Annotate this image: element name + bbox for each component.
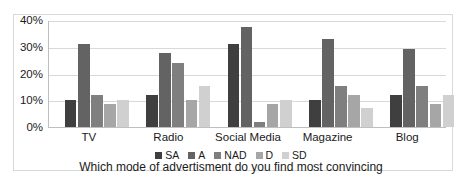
legend-swatch-icon [282, 152, 289, 159]
bar-group [293, 21, 374, 127]
bar-group [49, 21, 130, 127]
y-axis-tick-label: 30% [3, 42, 43, 54]
y-axis-tick-label: 10% [3, 96, 43, 108]
legend-item[interactable]: D [256, 150, 274, 161]
bar [361, 108, 373, 127]
legend-swatch-icon [188, 152, 195, 159]
legend-item[interactable]: SA [155, 150, 179, 161]
bar [172, 63, 184, 127]
x-axis-category-label: Radio [129, 131, 209, 143]
x-axis-category-label: Blog [367, 131, 447, 143]
legend-item[interactable]: SD [282, 150, 307, 161]
legend-item[interactable]: NAD [214, 150, 246, 161]
bar [322, 39, 334, 127]
legend-label: A [198, 150, 205, 161]
bar [267, 104, 279, 127]
bar [309, 100, 321, 127]
chart-legend: SAANADDSD [0, 150, 462, 161]
bar [403, 49, 415, 127]
bar-group [374, 21, 455, 127]
bar [117, 100, 129, 127]
bar [199, 86, 211, 127]
y-axis-tick-label: 0% [3, 122, 43, 134]
bar [228, 44, 240, 127]
legend-label: NAD [224, 150, 246, 161]
x-axis-category-label: TV [49, 131, 129, 143]
x-axis-category-label: Magazine [288, 131, 368, 143]
bar [348, 95, 360, 127]
x-axis-title: Which mode of advertisment do you find m… [0, 160, 462, 174]
bar-chart: 0%10%20%30%40% TVRadioSocial MediaMagazi… [0, 0, 462, 185]
bar [335, 86, 347, 127]
x-axis-category-label: Social Media [208, 131, 288, 143]
y-axis-tick-label: 40% [3, 15, 43, 27]
plot-area [48, 21, 446, 128]
bar [443, 95, 455, 127]
bar-group [212, 21, 293, 127]
legend-swatch-icon [155, 152, 162, 159]
bar [104, 104, 116, 127]
bar [65, 100, 77, 127]
legend-label: SA [165, 150, 179, 161]
bar [390, 95, 402, 127]
legend-label: D [266, 150, 274, 161]
x-axis-category-labels: TVRadioSocial MediaMagazineBlog [49, 131, 447, 143]
bar [159, 53, 171, 127]
bar [241, 27, 253, 127]
legend-label: SD [292, 150, 307, 161]
bar-group [130, 21, 211, 127]
bar [146, 95, 158, 127]
bar [186, 100, 198, 127]
bar [254, 122, 266, 127]
bar [430, 104, 442, 127]
bar [416, 86, 428, 127]
legend-swatch-icon [256, 152, 263, 159]
bar [280, 100, 292, 127]
legend-swatch-icon [214, 152, 221, 159]
bar-groups [49, 21, 446, 127]
legend-item[interactable]: A [188, 150, 205, 161]
x-axis-line [48, 127, 446, 128]
bar [78, 44, 90, 127]
y-axis-tick-label: 20% [3, 69, 43, 81]
bar [91, 95, 103, 127]
